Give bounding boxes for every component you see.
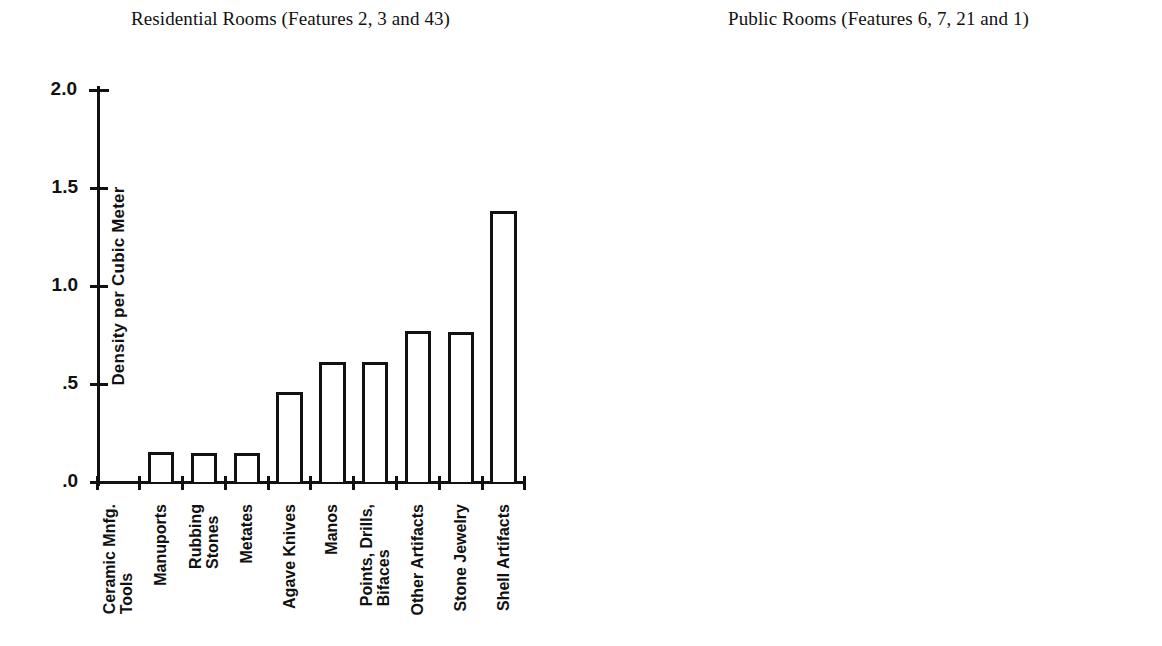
bar-slot	[482, 90, 525, 482]
bar-slot	[140, 90, 183, 482]
y-tick-label-0.0: .0	[62, 471, 78, 490]
x-category-labels-residential: Ceramic Mnfg.Tools Manuports RubbingSton…	[97, 504, 525, 646]
bar-slot	[311, 90, 354, 482]
panel-title-residential: Residential Rooms (Features 2, 3 and 43)	[0, 8, 581, 30]
bar-other-artifacts[interactable]	[405, 331, 432, 482]
bar-metates[interactable]	[234, 453, 261, 482]
bar-manos[interactable]	[319, 362, 346, 482]
chart-panel-public: Public Rooms (Features 6, 7, 21 and 1) D…	[581, 0, 1162, 646]
bar-slot	[183, 90, 226, 482]
x-label-other-artifacts: Other Artifacts	[397, 504, 440, 646]
bar-slot	[354, 90, 397, 482]
bar-group-residential	[97, 90, 525, 482]
bar-slot	[268, 90, 311, 482]
bar-slot	[97, 90, 140, 482]
chart-panel-residential: Residential Rooms (Features 2, 3 and 43)…	[0, 0, 581, 646]
y-tick-label-1.5: 1.5	[52, 177, 78, 196]
panel-title-public: Public Rooms (Features 6, 7, 21 and 1)	[581, 8, 1162, 30]
y-tick-label-2.0: 2.0	[51, 79, 77, 98]
x-label-rubbing-stones: RubbingStones	[183, 504, 226, 646]
y-tick-label-0.5: .5	[62, 373, 78, 392]
bar-slot	[397, 90, 440, 482]
x-label-points-drills-bifaces: Points, Drills,Bifaces	[354, 504, 397, 646]
x-label-ceramic-mnfg-tools: Ceramic Mnfg.Tools	[97, 504, 140, 646]
x-label-metates: Metates	[225, 504, 268, 646]
x-label-manos: Manos	[311, 504, 354, 646]
x-label-agave-knives: Agave Knives	[268, 504, 311, 646]
bar-agave-knives[interactable]	[276, 392, 303, 482]
bar-shell-artifacts[interactable]	[490, 211, 517, 482]
x-label-manuports: Manuports	[140, 504, 183, 646]
x-label-stone-jewelry: Stone Jewelry	[439, 504, 482, 646]
x-label-shell-artifacts: Shell Artifacts	[482, 504, 525, 646]
y-tick-label-1.0: 1.0	[52, 275, 78, 294]
bar-manuports[interactable]	[148, 452, 175, 482]
bar-points-drills-bifaces[interactable]	[362, 362, 389, 482]
plot-area-residential: Density per Cubic Meter 2.0 1.5 1.0 .5 .…	[97, 90, 525, 482]
bar-rubbing-stones[interactable]	[191, 453, 218, 482]
bar-slot	[439, 90, 482, 482]
bar-slot	[225, 90, 268, 482]
bar-stone-jewelry[interactable]	[448, 332, 475, 482]
